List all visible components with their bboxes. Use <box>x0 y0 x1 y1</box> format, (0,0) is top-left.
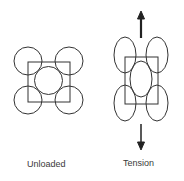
unloaded-label: Unloaded <box>27 159 66 169</box>
unloaded-atom-center <box>35 67 63 95</box>
unloaded-lattice <box>14 47 83 114</box>
tension-lattice <box>114 37 168 121</box>
tension-atom-center <box>130 61 152 97</box>
down-arrow-icon <box>138 124 145 150</box>
diagram-canvas <box>0 0 184 181</box>
tension-label: Tension <box>123 158 154 168</box>
up-arrow-icon <box>138 11 145 38</box>
